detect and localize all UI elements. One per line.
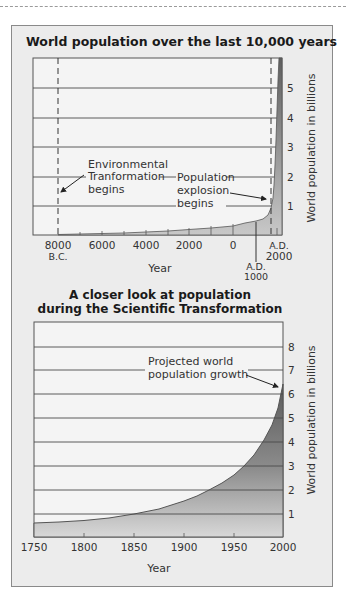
x-tick: 1000 — [244, 271, 268, 282]
annotation-env-line2: Tranformation — [87, 170, 165, 183]
top-y-ticks: 5 4 3 2 1 — [287, 82, 294, 212]
y-tick: 3 — [287, 141, 294, 153]
top-x-axis-label: Year — [147, 262, 172, 275]
y-tick: 2 — [287, 171, 294, 183]
y-tick: 4 — [288, 436, 295, 448]
annotation-pop-line1: Population — [177, 171, 235, 184]
bottom-chart-title-line2: during the Scientific Transformation — [38, 302, 283, 316]
x-tick: 1950 — [221, 541, 248, 553]
bottom-y-axis-label: World population in billions — [305, 345, 318, 494]
x-tick: 2000 — [176, 239, 203, 251]
bottom-x-axis-label: Year — [146, 562, 171, 575]
x-tick: 1850 — [121, 541, 148, 553]
y-tick: 4 — [287, 112, 294, 124]
bottom-chart-title-line1: A closer look at population — [69, 288, 251, 302]
annotation-pop-line3: begins — [177, 197, 214, 210]
y-tick: 5 — [287, 82, 294, 94]
y-tick: 1 — [288, 508, 295, 520]
top-chart-title: World population over the last 10,000 ye… — [26, 34, 337, 49]
annotation-projected-line1: Projected world — [148, 355, 233, 368]
x-tick-sub: B.C. — [48, 251, 67, 262]
y-tick: 7 — [288, 364, 295, 376]
y-tick: 6 — [288, 388, 295, 400]
y-tick: 2 — [288, 484, 295, 496]
y-tick: 5 — [288, 412, 295, 424]
x-tick: 1800 — [71, 541, 98, 553]
top-y-axis-label: World population in billions — [305, 73, 318, 222]
x-tick: 2000 — [266, 250, 293, 262]
y-tick: 3 — [288, 460, 295, 472]
bottom-y-ticks: 1 2 3 4 5 6 7 8 — [288, 341, 295, 520]
x-tick: 1750 — [21, 541, 48, 553]
x-tick: 6000 — [89, 239, 116, 251]
bottom-x-ticks: 1750 1800 1850 1900 1950 2000 — [21, 541, 297, 553]
x-tick: 2000 — [270, 541, 297, 553]
annotation-env-line3: begins — [88, 183, 125, 196]
x-tick: 4000 — [133, 239, 160, 251]
y-tick: 1 — [287, 200, 294, 212]
figure-svg: World population over the last 10,000 ye… — [0, 0, 346, 602]
top-x-ticks: 8000 B.C. 6000 4000 2000 0 A.D. 2000 A.D… — [45, 239, 293, 282]
annotation-pop-line2: explosion — [177, 184, 229, 197]
annotation-projected-line2: population growth — [148, 368, 248, 381]
x-tick: 1900 — [171, 541, 198, 553]
x-tick: 8000 — [45, 239, 72, 251]
y-tick: 8 — [288, 341, 295, 353]
x-tick: 0 — [230, 239, 237, 251]
